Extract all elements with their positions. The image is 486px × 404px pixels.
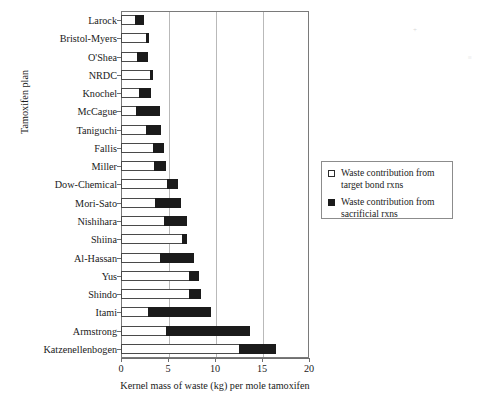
chart-figure: LarockBristol-MyersO'SheaNRDCKnochelMcCa…: [0, 0, 486, 404]
stacked-bar: [121, 33, 149, 43]
bar-segment-target-bond: [121, 143, 153, 153]
bar-segment-sacrificial: [150, 70, 153, 80]
stacked-bar: [121, 344, 276, 354]
legend-entry-sacrificial: Waste contribution from sacrificial rxns: [328, 196, 448, 219]
bar-segment-target-bond: [121, 216, 164, 226]
stacked-bar: [121, 179, 178, 189]
bar-segment-sacrificial: [167, 179, 178, 189]
stacked-bar: [121, 198, 181, 208]
x-tick-label: 10: [210, 363, 220, 374]
bar-segment-target-bond: [121, 326, 166, 336]
bar-segment-target-bond: [121, 125, 146, 135]
bar-row: Katzenellenbogen: [0, 340, 486, 358]
bar-segment-sacrificial: [146, 125, 161, 135]
bar-segment-sacrificial: [136, 106, 160, 116]
bar-segment-sacrificial: [148, 307, 211, 317]
bar-row: Itami: [0, 303, 486, 321]
bar-row: Taniguchi: [0, 121, 486, 139]
legend-label-target-bond: Waste contribution from target bond rxns: [341, 167, 435, 190]
category-label: Al-Hassan: [74, 252, 117, 263]
x-tick-label: 20: [304, 363, 314, 374]
x-tick-label: 0: [118, 363, 123, 374]
chart-legend: Waste contribution from target bond rxns…: [321, 161, 453, 219]
x-tick: [309, 358, 310, 362]
category-label: Yus: [102, 270, 117, 281]
stacked-bar: [121, 70, 153, 80]
bar-segment-sacrificial: [154, 161, 166, 171]
stacked-bar: [121, 307, 211, 317]
category-label: McCague: [77, 106, 117, 117]
stacked-bar: [121, 106, 160, 116]
category-label: O'Shea: [88, 51, 117, 62]
open-square-icon: [328, 170, 335, 177]
legend-entry-target-bond: Waste contribution from target bond rxns: [328, 167, 448, 190]
stacked-bar: [121, 52, 148, 62]
stacked-bar: [121, 88, 151, 98]
stacked-bar: [121, 326, 250, 336]
scan-artifact-side: ≡: [468, 55, 472, 62]
bar-segment-sacrificial: [189, 289, 201, 299]
stacked-bar: [121, 289, 201, 299]
category-label: Taniguchi: [76, 124, 117, 135]
bar-segment-sacrificial: [182, 234, 187, 244]
stacked-bar: [121, 161, 166, 171]
stacked-bar: [121, 271, 199, 281]
stacked-bar: [121, 216, 187, 226]
category-label: Katzenellenbogen: [43, 343, 117, 354]
category-label: Fallis: [94, 142, 117, 153]
bar-segment-target-bond: [121, 33, 146, 43]
bar-segment-target-bond: [121, 234, 182, 244]
category-label: Nishihara: [77, 216, 117, 227]
bar-segment-target-bond: [121, 271, 189, 281]
category-label: Itami: [96, 307, 118, 318]
bar-segment-target-bond: [121, 106, 136, 116]
x-tick-label: 15: [257, 363, 267, 374]
bar-segment-target-bond: [121, 289, 189, 299]
bar-segment-sacrificial: [160, 253, 194, 263]
bar-row: Fallis: [0, 139, 486, 157]
x-tick: [215, 358, 216, 362]
category-label: Larock: [88, 15, 117, 26]
category-label: Shindo: [88, 289, 117, 300]
x-axis-title: Kernel mass of waste (kg) per mole tamox…: [0, 380, 430, 391]
bar-segment-sacrificial: [189, 271, 199, 281]
category-label: Armstrong: [73, 325, 117, 336]
bar-segment-sacrificial: [239, 344, 276, 354]
bar-segment-sacrificial: [139, 88, 151, 98]
bar-segment-target-bond: [121, 307, 148, 317]
category-label: Shiina: [91, 234, 117, 245]
bar-segment-sacrificial: [135, 15, 143, 25]
bar-row: Yus: [0, 267, 486, 285]
bar-segment-target-bond: [121, 52, 137, 62]
bar-row: NRDC: [0, 66, 486, 84]
category-label: Bristol-Myers: [60, 33, 117, 44]
x-tick: [168, 358, 169, 362]
bar-segment-target-bond: [121, 161, 154, 171]
x-tick: [262, 358, 263, 362]
bar-segment-target-bond: [121, 70, 150, 80]
bar-row: Armstrong: [0, 321, 486, 339]
bar-row: O'Shea: [0, 48, 486, 66]
category-label: Mori-Sato: [75, 197, 117, 208]
bar-row: Shiina: [0, 230, 486, 248]
scan-artifact-top: +: [413, 27, 417, 34]
bar-segment-sacrificial: [166, 326, 250, 336]
bar-row: Shindo: [0, 285, 486, 303]
stacked-bar: [121, 143, 164, 153]
bar-segment-sacrificial: [155, 198, 181, 208]
bar-segment-sacrificial: [164, 216, 187, 226]
bar-segment-target-bond: [121, 88, 139, 98]
category-label: Dow-Chemical: [55, 179, 117, 190]
legend-label-sacrificial: Waste contribution from sacrificial rxns: [341, 196, 435, 219]
stacked-bar: [121, 253, 194, 263]
bar-row: McCague: [0, 102, 486, 120]
filled-square-icon: [328, 199, 335, 206]
stacked-bar: [121, 125, 161, 135]
y-axis-title-text: Tamoxifen plan: [19, 70, 30, 134]
bar-segment-sacrificial: [146, 33, 149, 43]
stacked-bar: [121, 15, 144, 25]
bar-segment-target-bond: [121, 15, 135, 25]
bar-segment-target-bond: [121, 344, 239, 354]
bar-segment-sacrificial: [137, 52, 148, 62]
category-label: Miller: [92, 161, 117, 172]
